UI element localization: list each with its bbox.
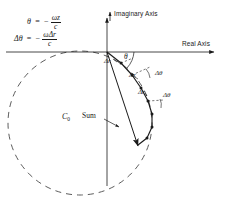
sum-label-leader <box>104 119 119 127</box>
equation-theta-lhs: θ <box>27 17 31 26</box>
equation-delta-theta-lhs: Δθ <box>14 34 23 43</box>
circle-label-subscript: 0 <box>67 116 70 122</box>
equation-delta-theta-fraction: ωΔr c <box>42 31 57 47</box>
imaginary-axis-label: Imaginary Axis <box>114 11 158 18</box>
annotation-delta-theta-1: Δθ <box>155 70 163 77</box>
annotation-delta-theta-2: Δθ <box>163 92 171 99</box>
sum-vector-line <box>107 52 138 146</box>
equation-theta: θ = − ωz c <box>27 14 61 30</box>
equation-delta-theta-denominator: c <box>42 40 57 48</box>
annotation-delta-r-2: Δr <box>129 72 136 79</box>
equation-theta-equals: = <box>35 17 40 26</box>
delta-theta-guides <box>121 58 164 108</box>
equation-theta-fraction: ωz c <box>51 14 61 30</box>
real-axis-label: Real Axis <box>182 41 210 48</box>
equation-theta-denominator: c <box>51 23 61 31</box>
figure-canvas: Imaginary Axis Real Axis θ = − ωz c Δθ =… <box>0 0 232 216</box>
annotation-sum: Sum <box>82 112 96 120</box>
annotation-delta-r-1: Δr <box>104 58 111 65</box>
circle-label-c0: C0 <box>62 113 70 122</box>
equation-delta-theta-minus: − <box>36 34 41 43</box>
theta-arc <box>127 52 134 68</box>
equation-delta-theta: Δθ = − ωΔr c <box>14 31 57 47</box>
equation-delta-theta-equals: = <box>27 34 32 43</box>
annotation-delta-r-3: Δr <box>138 89 145 96</box>
phasor-chain <box>107 52 152 145</box>
annotation-theta-angle: θ <box>124 53 128 61</box>
equation-theta-minus: − <box>44 17 49 26</box>
